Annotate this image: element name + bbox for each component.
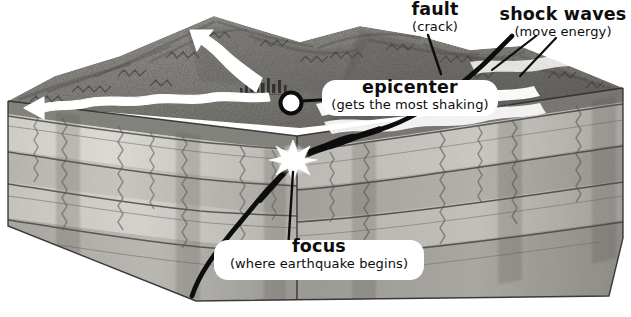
earthquake-diagram-figure: fault (crack) shock waves (move energy) … bbox=[0, 0, 631, 317]
fault-term: fault bbox=[389, 1, 481, 19]
focus-term: focus bbox=[228, 238, 410, 256]
fault-note: (crack) bbox=[389, 20, 481, 33]
focus-note: (where earthquake begins) bbox=[228, 257, 410, 270]
epicenter-label: epicenter (gets the most shaking) bbox=[330, 79, 490, 111]
epicenter-note: (gets the most shaking) bbox=[330, 98, 490, 111]
epicenter-term: epicenter bbox=[330, 79, 490, 97]
focus-label: focus (where earthquake begins) bbox=[228, 238, 410, 270]
shock-waves-note: (move energy) bbox=[496, 25, 630, 38]
shock-waves-term: shock waves bbox=[496, 6, 630, 24]
fault-label: fault (crack) bbox=[389, 1, 481, 33]
shock-waves-label: shock waves (move energy) bbox=[496, 6, 630, 38]
epicenter-circle bbox=[281, 93, 302, 114]
